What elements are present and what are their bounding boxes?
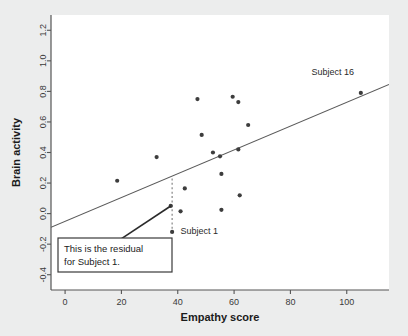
data-point	[155, 155, 159, 159]
figure-container: -0.4-0.20.00.20.40.60.81.01.202040608010…	[0, 0, 408, 336]
y-tick-label-6: 0.8	[38, 85, 48, 98]
data-point	[211, 150, 215, 154]
y-tick-label-7: 1.0	[38, 55, 48, 68]
x-tick-label-3: 60	[229, 297, 239, 307]
y-tick-label-1: -0.2	[38, 236, 48, 252]
data-point	[170, 230, 174, 234]
y-tick-label-2: 0.0	[38, 207, 48, 220]
x-tick-label-1: 20	[116, 297, 126, 307]
x-tick-label-0: 0	[63, 297, 68, 307]
y-tick-label-3: 0.2	[38, 177, 48, 190]
data-point	[219, 208, 223, 212]
residual-callout-line2: for Subject 1.	[64, 256, 120, 267]
data-point	[115, 179, 119, 183]
y-tick-label-8: 1.2	[38, 24, 48, 37]
data-point	[236, 100, 240, 104]
data-point	[183, 186, 187, 190]
data-point	[238, 193, 242, 197]
x-tick-label-5: 100	[339, 297, 354, 307]
data-point	[246, 123, 250, 127]
data-point	[359, 91, 363, 95]
data-point	[195, 97, 199, 101]
data-point	[200, 133, 204, 137]
x-tick-label-2: 40	[173, 297, 183, 307]
x-axis-title: Empathy score	[181, 311, 260, 323]
y-axis-title: Brain activity	[10, 117, 22, 187]
subject-1-label: Subject 1	[181, 226, 219, 236]
data-point	[236, 147, 240, 151]
data-point	[218, 154, 222, 158]
y-tick-label-0: -0.4	[38, 267, 48, 283]
y-tick-label-5: 0.6	[38, 116, 48, 129]
data-point	[219, 172, 223, 176]
residual-callout-line1: This is the residual	[64, 243, 143, 254]
subject-16-label: Subject 16	[311, 67, 354, 77]
y-tick-label-4: 0.4	[38, 146, 48, 159]
data-point	[178, 209, 182, 213]
data-point	[231, 95, 235, 99]
x-tick-label-4: 80	[285, 297, 295, 307]
scatter-plot: -0.4-0.20.00.20.40.60.81.01.202040608010…	[0, 0, 408, 336]
